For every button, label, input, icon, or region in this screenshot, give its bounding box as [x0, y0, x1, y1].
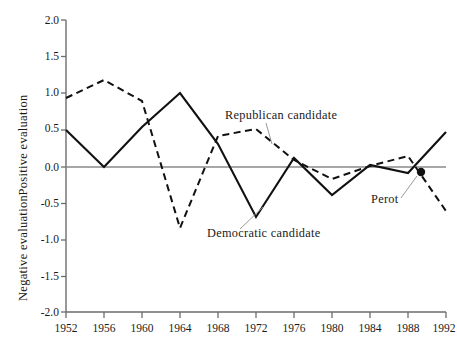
- evaluation-line-chart: 2.0 1.5 1.0 0.5 0.0 -0.5 -1.0 -1.5 -2.0: [0, 0, 457, 353]
- y-axis-tick-labels: 2.0 1.5 1.0 0.5 0.0 -0.5 -1.0 -1.5 -2.0: [41, 14, 59, 318]
- y-tick-label-neg-2-0: -2.0: [41, 306, 59, 318]
- data-point-perot: [417, 168, 425, 176]
- x-tick-label-1972: 1972: [245, 322, 268, 334]
- x-axis-tick-labels: 1952 1956 1960 1964 1968 1972 1976 1980 …: [55, 322, 456, 334]
- x-tick-label-1988: 1988: [397, 322, 420, 334]
- x-tick-label-1984: 1984: [359, 322, 382, 334]
- x-tick-label-1952: 1952: [55, 322, 78, 334]
- x-tick-label-1980: 1980: [321, 322, 344, 334]
- y-tick-label-0-5: 0.5: [45, 122, 60, 134]
- x-tick-label-1964: 1964: [169, 322, 192, 334]
- annotation-democratic-candidate: Democratic candidate: [207, 226, 321, 240]
- y-tick-label-neg-1-5: -1.5: [41, 270, 59, 282]
- x-tick-label-1976: 1976: [283, 322, 306, 334]
- x-tick-label-1960: 1960: [131, 322, 154, 334]
- chart-container: 2.0 1.5 1.0 0.5 0.0 -0.5 -1.0 -1.5 -2.0: [0, 0, 457, 353]
- y-tick-label-2-0: 2.0: [45, 14, 60, 26]
- y-tick-label-neg-0-5: -0.5: [41, 197, 59, 209]
- leader-line-perot: [401, 176, 417, 198]
- annotation-perot: Perot: [371, 192, 399, 206]
- y-tick-label-1-5: 1.5: [45, 50, 60, 62]
- y-axis-title-positive: Positive evaluation: [16, 94, 30, 196]
- x-tick-label-1956: 1956: [93, 322, 116, 334]
- y-axis-title-negative: Negative evaluation: [16, 195, 30, 301]
- x-tick-label-1968: 1968: [207, 322, 230, 334]
- y-tick-label-0-0: 0.0: [45, 161, 60, 173]
- y-tick-label-1-0: 1.0: [45, 86, 60, 98]
- x-axis-spine: [66, 312, 446, 318]
- x-tick-label-1992: 1992: [433, 322, 456, 334]
- y-axis-spine: [61, 20, 66, 312]
- y-tick-label-neg-1-0: -1.0: [41, 233, 59, 245]
- annotation-republican-candidate: Republican candidate: [225, 108, 337, 122]
